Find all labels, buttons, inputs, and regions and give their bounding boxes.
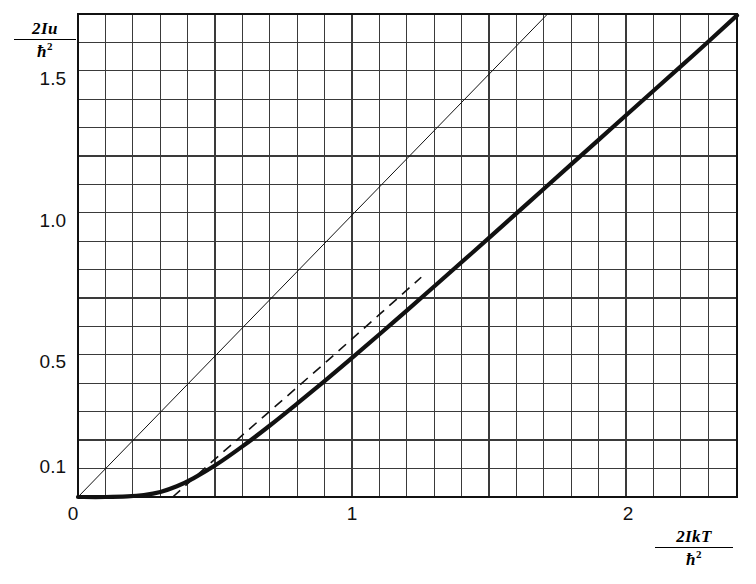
grid-lines-horizontal <box>78 42 737 468</box>
series-classical-line-u-equals-kT <box>78 14 548 497</box>
grid-lines-vertical <box>105 14 708 497</box>
x-axis-label-denominator: ħ2 <box>655 548 733 569</box>
y-axis-label: 2Iu ħ2 <box>14 20 76 60</box>
x-tick-label-1: 1 <box>332 503 372 525</box>
plot-frame <box>78 14 737 497</box>
x-axis-label-numerator: 2IkT <box>655 528 733 548</box>
plot-canvas <box>0 0 756 584</box>
y-tick-label-1-5: 1.5 <box>14 68 66 90</box>
origin-label: 0 <box>58 503 88 525</box>
y-tick-label-0-1: 0.1 <box>14 456 66 478</box>
y-axis-label-denominator: ħ2 <box>14 40 76 61</box>
y-tick-label-1-0: 1.0 <box>14 210 66 232</box>
x-tick-label-2: 2 <box>608 503 648 525</box>
x-axis-label: 2IkT ħ2 <box>655 528 733 568</box>
chart-figure: 2Iu ħ2 2IkT ħ2 1.5 1.0 0.5 0.1 0 1 2 <box>0 0 756 584</box>
y-tick-label-0-5: 0.5 <box>14 351 66 373</box>
y-axis-label-numerator: 2Iu <box>14 20 76 40</box>
